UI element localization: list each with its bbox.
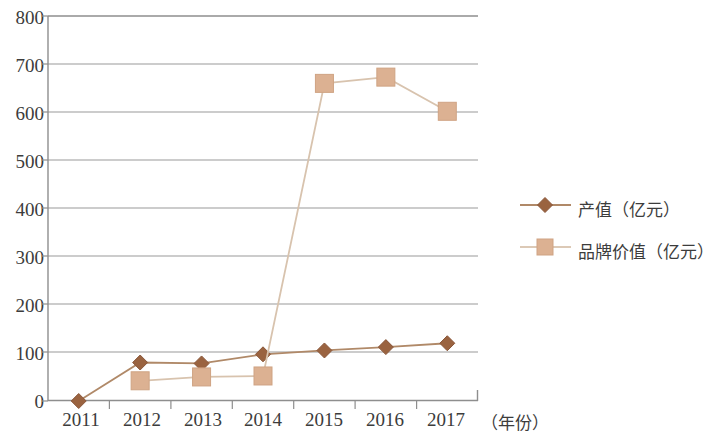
legend-marker-pinpai-jiazhi[interactable] (520, 239, 571, 255)
series-line (140, 77, 447, 381)
y-axis-ticks (42, 16, 48, 401)
legend-marker-chanzhi[interactable] (520, 198, 571, 213)
data-point-marker[interactable] (438, 102, 456, 120)
gridlines (48, 16, 478, 352)
x-axis-ticks (109, 401, 416, 409)
data-point-marker[interactable] (193, 368, 211, 386)
data-point-marker[interactable] (440, 336, 455, 351)
chart-plot-svg (0, 0, 725, 433)
data-point-marker[interactable] (71, 394, 86, 409)
data-point-marker[interactable] (377, 68, 395, 86)
series-2 (131, 68, 456, 390)
data-point-marker[interactable] (133, 355, 148, 370)
data-point-marker[interactable] (315, 74, 333, 92)
data-point-marker[interactable] (317, 343, 332, 358)
chart-container: 800 700 600 500 400 300 200 100 0 2011 2… (0, 0, 725, 433)
data-series-layer (71, 68, 456, 408)
data-point-marker[interactable] (131, 372, 149, 390)
data-point-marker[interactable] (254, 367, 272, 385)
